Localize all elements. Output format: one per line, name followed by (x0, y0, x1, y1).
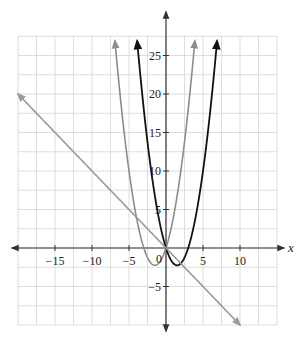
x-axis-label: x (287, 240, 294, 255)
x-tick-label: 10 (234, 254, 246, 268)
y-tick-label: 20 (149, 87, 161, 101)
y-tick-label: 15 (149, 126, 161, 140)
x-tick-label: −5 (123, 254, 136, 268)
origin-label: 0 (156, 252, 162, 266)
x-tick-label: −10 (83, 254, 102, 268)
y-tick-label: −5 (148, 280, 161, 294)
function-graph: −15−10−5510252015105−5 x 0 (0, 0, 301, 341)
x-tick-label: −15 (46, 254, 65, 268)
x-tick-label: 5 (200, 254, 206, 268)
y-tick-label: 25 (149, 49, 161, 63)
